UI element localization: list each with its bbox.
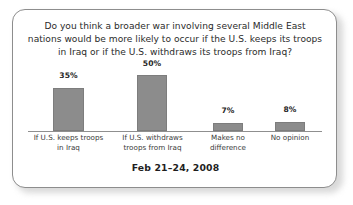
bar-column-if-us-keeps-troops: 35% — [53, 63, 84, 131]
category-label-line: If U.S. withdraws — [114, 133, 191, 143]
category-label-no-opinion: No opinion — [256, 133, 324, 143]
poll-card: Do you think a broader war involving sev… — [12, 9, 337, 188]
x-axis-line — [28, 131, 322, 132]
category-label-line: troops from Iraq — [114, 143, 191, 153]
category-label-line: difference — [194, 143, 262, 153]
bar-value-label: 35% — [33, 71, 104, 80]
bar-column-if-us-withdraws-troops: 50% — [137, 63, 167, 131]
category-label-makes-no-difference: Makes no difference — [194, 133, 262, 152]
category-label-if-us-keeps-troops: If U.S. keeps troops in Iraq — [29, 133, 108, 152]
category-label-if-us-withdraws-troops: If U.S. withdraws troops from Iraq — [114, 133, 191, 152]
bar-if-us-keeps-troops[interactable] — [53, 88, 84, 131]
poll-date-footer: Feb 21–24, 2008 — [13, 162, 338, 173]
bar-if-us-withdraws-troops[interactable] — [137, 75, 167, 132]
category-label-line: Makes no — [194, 133, 262, 143]
category-label-line: No opinion — [256, 133, 324, 143]
category-label-line: in Iraq — [29, 143, 108, 153]
bar-value-label: 8% — [255, 105, 325, 114]
bar-no-opinion[interactable] — [275, 122, 305, 131]
category-label-line: If U.S. keeps troops — [29, 133, 108, 143]
bar-value-label: 7% — [193, 106, 263, 115]
bar-makes-no-difference[interactable] — [213, 123, 243, 131]
poll-chart-figure: Do you think a broader war involving sev… — [0, 0, 353, 205]
bar-value-label: 50% — [117, 59, 187, 68]
bar-column-makes-no-difference: 7% — [213, 63, 243, 131]
bar-chart-plot-area: 35% If U.S. keeps troops in Iraq 50% If … — [13, 63, 338, 148]
poll-question-text: Do you think a broader war involving sev… — [27, 20, 323, 60]
bar-column-no-opinion: 8% — [275, 63, 305, 131]
